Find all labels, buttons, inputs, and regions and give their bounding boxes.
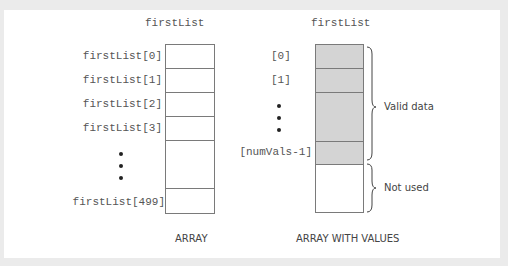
left-label-3: firstList[3] bbox=[83, 122, 162, 134]
left-array-title: firstList bbox=[145, 17, 204, 29]
left-label-1: firstList[1] bbox=[83, 74, 162, 86]
left-array-box bbox=[165, 44, 215, 214]
ellipsis-dot-icon bbox=[277, 104, 281, 108]
ellipsis-dot-icon bbox=[119, 164, 123, 168]
filled-cell-last bbox=[316, 141, 363, 165]
array-cell bbox=[166, 45, 214, 69]
array-cell bbox=[166, 117, 214, 141]
left-label-499: firstList[499] bbox=[73, 196, 165, 208]
left-label-0: firstList[0] bbox=[83, 50, 162, 62]
filled-cell-gap bbox=[316, 93, 363, 141]
ellipsis-dot-icon bbox=[119, 176, 123, 180]
right-caption: ARRAY WITH VALUES bbox=[296, 233, 399, 244]
left-label-2: firstList[2] bbox=[83, 98, 162, 110]
right-array-box bbox=[315, 44, 364, 213]
ellipsis-dot-icon bbox=[119, 152, 123, 156]
left-caption: ARRAY bbox=[175, 233, 208, 244]
ellipsis-dot-icon bbox=[277, 128, 281, 132]
ellipsis-dot-icon bbox=[277, 116, 281, 120]
brace-icon bbox=[366, 44, 380, 216]
array-cell bbox=[166, 93, 214, 117]
right-label-1: [1] bbox=[271, 74, 291, 86]
right-label-0: [0] bbox=[271, 50, 291, 62]
filled-cell bbox=[316, 45, 363, 69]
filled-cell bbox=[316, 69, 363, 93]
array-cell-gap bbox=[166, 141, 214, 189]
array-cell bbox=[166, 69, 214, 93]
right-label-numvals: [numVals-1] bbox=[239, 146, 312, 158]
valid-data-label: Valid data bbox=[384, 101, 434, 112]
diagram-panel bbox=[4, 10, 500, 258]
not-used-label: Not used bbox=[384, 182, 429, 193]
right-array-title: firstList bbox=[311, 17, 370, 29]
